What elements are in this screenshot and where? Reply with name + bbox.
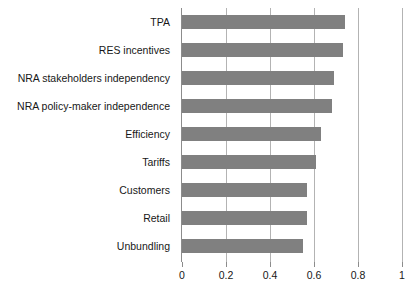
x-tick-label: 0 <box>162 269 202 281</box>
category-label: NRA policy-maker independence <box>0 100 170 112</box>
bar <box>182 71 334 85</box>
category-label: RES incentives <box>0 44 170 56</box>
category-label: Tariffs <box>0 156 170 168</box>
horizontal-bar-chart: TPARES incentivesNRA stakeholders indepe… <box>0 0 420 302</box>
category-label: Unbundling <box>0 240 170 252</box>
x-tick-label: 1 <box>382 269 420 281</box>
bar-row <box>182 204 402 232</box>
gridline <box>402 8 403 262</box>
category-axis-labels: TPARES incentivesNRA stakeholders indepe… <box>0 8 176 262</box>
bar <box>182 127 321 141</box>
x-tick-mark <box>402 262 403 267</box>
bar-row <box>182 8 402 36</box>
bar-row <box>182 120 402 148</box>
x-tick-label: 0.4 <box>250 269 290 281</box>
category-label: Efficiency <box>0 128 170 140</box>
x-tick-mark <box>358 262 359 267</box>
x-tick-mark <box>270 262 271 267</box>
bar <box>182 211 307 225</box>
plot-area <box>182 8 402 262</box>
x-tick-label: 0.6 <box>294 269 334 281</box>
category-label: Customers <box>0 184 170 196</box>
category-label: Retail <box>0 212 170 224</box>
bar <box>182 239 303 253</box>
bar-row <box>182 232 402 260</box>
bar <box>182 43 343 57</box>
category-label: TPA <box>0 16 170 28</box>
x-tick-mark <box>182 262 183 267</box>
category-label: NRA stakeholders independency <box>0 72 170 84</box>
bar-row <box>182 148 402 176</box>
x-tick-label: 0.2 <box>206 269 246 281</box>
x-tick-label: 0.8 <box>338 269 378 281</box>
bar <box>182 155 316 169</box>
bar-row <box>182 64 402 92</box>
bar <box>182 183 307 197</box>
x-tick-mark <box>314 262 315 267</box>
bar-row <box>182 176 402 204</box>
bar <box>182 15 345 29</box>
bar-row <box>182 92 402 120</box>
x-axis: 00.20.40.60.81 <box>182 262 402 302</box>
bar-row <box>182 36 402 64</box>
x-tick-mark <box>226 262 227 267</box>
bar <box>182 99 332 113</box>
